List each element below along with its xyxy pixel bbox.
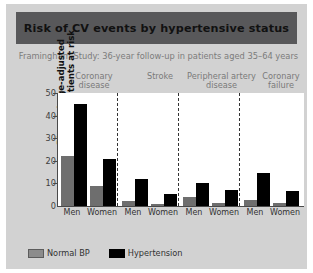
bar-hypertension-0 [74, 104, 87, 206]
group-header-peripheral-artery-disease: Peripheral artery disease [183, 72, 260, 91]
bar-hypertension-3 [164, 194, 177, 206]
bar-normal-bp-6 [244, 200, 257, 206]
legend-item-normal-bp: Normal BP [28, 248, 90, 258]
group-header-line2: failure [256, 81, 306, 90]
group-header-line2: disease [183, 81, 260, 90]
group-divider-3 [239, 93, 240, 206]
x-label-peripheral-artery-disease-women: Women [208, 208, 240, 217]
bar-normal-bp-0 [61, 156, 74, 206]
chart-plot-area [57, 93, 304, 207]
bar-hypertension-7 [286, 191, 299, 206]
bar-hypertension-2 [135, 179, 148, 206]
group-divider-2 [178, 93, 179, 206]
bar-hypertension-5 [225, 190, 238, 206]
bar-normal-bp-3 [151, 204, 164, 206]
legend-label-hypertension: Hypertension [128, 248, 183, 258]
bar-normal-bp-2 [122, 201, 135, 206]
legend-swatch-normal-bp [28, 249, 44, 258]
bar-normal-bp-1 [90, 186, 103, 206]
bar-hypertension-4 [196, 183, 209, 206]
bar-normal-bp-4 [183, 197, 196, 206]
legend-label-normal-bp: Normal BP [47, 248, 90, 258]
bar-hypertension-6 [257, 173, 270, 206]
x-label-coronary-failure-men: Men [241, 208, 269, 217]
legend-swatch-hypertension [109, 249, 125, 258]
x-label-peripheral-artery-disease-men: Men [180, 208, 208, 217]
x-label-coronary-disease-men: Men [58, 208, 86, 217]
bar-normal-bp-7 [273, 203, 286, 206]
bar-normal-bp-5 [212, 203, 225, 206]
group-divider-1 [117, 93, 118, 206]
group-header-coronary-failure: Coronary failure [256, 72, 306, 91]
group-header-stroke: Stroke [133, 72, 187, 81]
x-label-stroke-women: Women [147, 208, 179, 217]
x-label-coronary-failure-women: Women [269, 208, 301, 217]
group-header-line1: Stroke [133, 72, 187, 81]
bar-hypertension-1 [103, 159, 116, 206]
legend-item-hypertension: Hypertension [109, 248, 183, 258]
slide-canvas: Risk of CV events by hypertensive status… [6, 4, 307, 269]
x-label-coronary-disease-women: Women [86, 208, 118, 217]
chart-legend: Normal BP Hypertension [28, 248, 183, 258]
x-label-stroke-men: Men [119, 208, 147, 217]
